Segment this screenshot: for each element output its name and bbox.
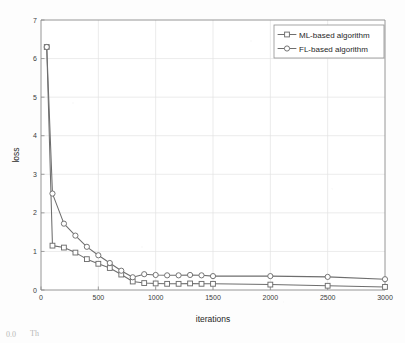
y-tick-label: 7 bbox=[33, 17, 37, 24]
circle-marker bbox=[325, 274, 330, 279]
y-tick-label: 2 bbox=[33, 209, 37, 216]
circle-marker bbox=[44, 44, 49, 49]
square-marker bbox=[188, 281, 193, 286]
x-tick-label: 3000 bbox=[377, 294, 393, 301]
circle-marker bbox=[210, 274, 215, 279]
y-tick-label: 5 bbox=[33, 94, 37, 101]
y-axis-title: loss bbox=[11, 147, 21, 162]
y-tick-label: 1 bbox=[33, 248, 37, 255]
x-tick-label: 0 bbox=[39, 294, 43, 301]
circle-marker bbox=[130, 275, 135, 280]
circle-marker bbox=[199, 273, 204, 278]
circle-marker bbox=[153, 272, 158, 277]
circle-marker bbox=[187, 272, 192, 277]
square-marker bbox=[73, 250, 78, 255]
square-marker bbox=[153, 281, 158, 286]
caption-fragment-right: Th bbox=[30, 329, 39, 338]
circle-marker bbox=[61, 221, 66, 226]
square-marker bbox=[50, 243, 55, 248]
square-marker bbox=[176, 281, 181, 286]
x-tick-label: 1000 bbox=[148, 294, 164, 301]
circle-marker bbox=[165, 273, 170, 278]
square-marker bbox=[96, 261, 101, 266]
y-tick-label: 0 bbox=[33, 287, 37, 294]
circle-marker bbox=[268, 274, 273, 279]
legend-label: FL-based algorithm bbox=[299, 45, 368, 54]
circle-marker bbox=[73, 233, 78, 238]
square-marker bbox=[199, 281, 204, 286]
y-tick-label: 4 bbox=[33, 132, 37, 139]
square-marker bbox=[383, 285, 388, 290]
circle-marker bbox=[284, 46, 289, 51]
circle-marker bbox=[176, 273, 181, 278]
x-tick-label: 2500 bbox=[320, 294, 336, 301]
circle-marker bbox=[119, 268, 124, 273]
square-marker bbox=[325, 283, 330, 288]
x-axis-title: iterations bbox=[196, 314, 231, 324]
square-marker bbox=[62, 245, 67, 250]
y-tick-label: 6 bbox=[33, 55, 37, 62]
circle-marker bbox=[142, 272, 147, 277]
circle-marker bbox=[84, 244, 89, 249]
square-marker bbox=[211, 281, 216, 286]
loss-convergence-chart: 01234567 050010001500200025003000 iterat… bbox=[0, 0, 405, 343]
figure-container: 01234567 050010001500200025003000 iterat… bbox=[0, 0, 405, 343]
chart-legend[interactable]: ML-based algorithmFL-based algorithm bbox=[274, 25, 384, 58]
square-marker bbox=[107, 266, 112, 271]
y-tick-label: 3 bbox=[33, 171, 37, 178]
caption-fragment-left: 0.0 bbox=[6, 330, 16, 339]
square-marker bbox=[165, 281, 170, 286]
square-marker bbox=[142, 281, 147, 286]
square-marker bbox=[84, 257, 89, 262]
x-tick-label: 500 bbox=[92, 294, 104, 301]
legend-label: ML-based algorithm bbox=[299, 31, 370, 40]
circle-marker bbox=[50, 191, 55, 196]
circle-marker bbox=[382, 277, 387, 282]
x-tick-label: 1500 bbox=[205, 294, 221, 301]
circle-marker bbox=[107, 260, 112, 265]
x-tick-label: 2000 bbox=[263, 294, 279, 301]
square-marker bbox=[268, 282, 273, 287]
circle-marker bbox=[96, 253, 101, 258]
square-marker bbox=[285, 32, 290, 37]
